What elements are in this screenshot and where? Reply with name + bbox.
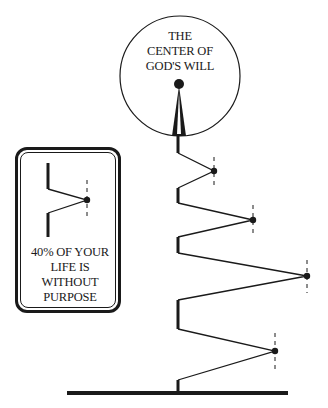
circle-title-line: GOD'S WILL <box>130 59 230 74</box>
circle-title-line: CENTER OF <box>130 44 230 59</box>
deviation-point <box>211 157 217 186</box>
legend-caption: 40% OF YOUR LIFE IS WITHOUT PURPOSE <box>20 245 120 305</box>
circle-title: THE CENTER OF GOD'S WILL <box>130 29 230 74</box>
life-path <box>178 136 307 392</box>
legend-caption-line: PURPOSE <box>20 290 120 305</box>
deviation-point <box>272 333 278 370</box>
legend-caption-line: WITHOUT <box>20 275 120 290</box>
circle-title-line: THE <box>130 29 230 44</box>
legend-caption-line: LIFE IS <box>20 260 120 275</box>
deviation-point <box>304 260 310 293</box>
deviation-point <box>250 205 256 236</box>
legend-caption-line: 40% OF YOUR <box>20 245 120 260</box>
